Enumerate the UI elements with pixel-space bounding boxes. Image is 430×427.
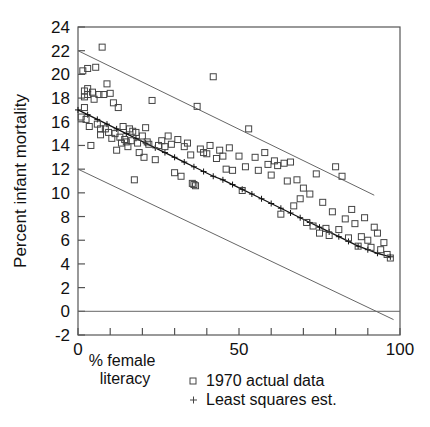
fit-plus-marker — [181, 159, 187, 165]
y-tick-label: 12 — [51, 160, 70, 179]
fit-plus-marker — [162, 150, 168, 156]
y-tick-label: 14 — [51, 136, 70, 155]
fit-plus-marker — [210, 173, 216, 179]
data-point — [313, 171, 319, 177]
x-tick-label: 50 — [230, 340, 249, 359]
data-point — [358, 234, 364, 240]
x-axis-title-line2: literacy — [100, 370, 151, 387]
fit-plus-marker — [288, 210, 294, 216]
fit-plus-marker — [220, 177, 226, 183]
data-point — [378, 247, 384, 253]
data-point — [93, 64, 99, 70]
data-point — [374, 230, 380, 236]
fit-plus-marker — [268, 201, 274, 207]
x-tick-label: 100 — [386, 340, 414, 359]
data-point — [307, 191, 313, 197]
fit-plus-marker — [172, 154, 178, 160]
data-point — [178, 173, 184, 179]
plot-frame — [78, 27, 400, 335]
data-point — [175, 137, 181, 143]
data-point — [265, 161, 271, 167]
legend-marker-plus — [190, 397, 197, 404]
data-point — [333, 164, 339, 170]
data-point — [143, 125, 149, 131]
x-tick-label: 0 — [73, 340, 82, 359]
lower-confidence-band — [78, 169, 394, 319]
data-point — [81, 105, 87, 111]
data-point — [381, 240, 387, 246]
legend-marker-open-square — [190, 378, 196, 384]
fit-plus-marker — [230, 182, 236, 188]
data-point — [278, 211, 284, 217]
data-point — [288, 159, 294, 165]
fit-plus-marker — [297, 215, 303, 221]
fit-plus-marker — [355, 243, 361, 249]
data-point — [342, 216, 348, 222]
fit-plus-marker — [201, 169, 207, 175]
y-tick-label: 20 — [51, 65, 70, 84]
fit-plus-marker — [317, 224, 323, 230]
fit-plus-marker — [75, 107, 81, 113]
data-point — [320, 199, 326, 205]
data-point — [352, 221, 358, 227]
data-point — [213, 155, 219, 161]
chart-figure: -2024681012141618202224 050100 Percent i… — [0, 0, 430, 427]
x-axis-title-line1: % female — [89, 352, 156, 369]
annotation-lines — [78, 51, 400, 320]
y-tick-label: 2 — [61, 279, 70, 298]
data-point — [230, 167, 236, 173]
data-point — [365, 237, 371, 243]
data-point — [172, 170, 178, 176]
data-point — [86, 124, 92, 130]
data-point — [152, 157, 158, 163]
data-point — [268, 172, 274, 178]
data-point — [88, 142, 94, 148]
scatter-plot-svg: -2024681012141618202224 050100 Percent i… — [0, 0, 430, 427]
data-point — [317, 230, 323, 236]
data-point — [162, 144, 168, 150]
fit-plus-marker — [259, 196, 265, 202]
data-point — [300, 185, 306, 191]
data-point — [291, 203, 297, 209]
y-tick-label: 6 — [61, 231, 70, 250]
legend: 1970 actual data Least squares est. — [190, 372, 337, 408]
y-tick-label: 16 — [51, 113, 70, 132]
data-point — [349, 206, 355, 212]
data-point — [297, 196, 303, 202]
data-point — [98, 132, 104, 138]
data-point — [236, 153, 242, 159]
legend-label-least-squares: Least squares est. — [206, 391, 337, 408]
data-point — [246, 126, 252, 132]
data-point — [294, 177, 300, 183]
y-axis-ticks: -2024681012141618202224 — [51, 18, 85, 345]
y-tick-label: 24 — [51, 18, 70, 37]
data-point — [362, 215, 368, 221]
data-point — [255, 167, 261, 173]
data-point — [262, 150, 268, 156]
data-point — [210, 74, 216, 80]
data-point — [336, 227, 342, 233]
fit-plus-marker — [249, 191, 255, 197]
data-point — [107, 90, 113, 96]
y-tick-label: 22 — [51, 42, 70, 61]
data-point — [114, 147, 120, 153]
y-axis-title: Percent infant mortality — [11, 94, 30, 268]
data-point — [99, 44, 105, 50]
fit-plus-marker — [191, 164, 197, 170]
y-tick-label: -2 — [55, 326, 70, 345]
y-tick-label: 10 — [51, 184, 70, 203]
data-point — [139, 133, 145, 139]
fit-plus-marker — [278, 205, 284, 211]
y-tick-label: 18 — [51, 89, 70, 108]
upper-confidence-band — [78, 51, 374, 196]
y-tick-label: 8 — [61, 208, 70, 227]
data-point — [188, 152, 194, 158]
data-point — [165, 133, 171, 139]
fit-polyline — [78, 110, 390, 257]
data-point — [217, 147, 223, 153]
data-point — [329, 209, 335, 215]
data-point — [371, 224, 377, 230]
legend-label-actual-data: 1970 actual data — [206, 372, 324, 389]
data-point — [120, 124, 126, 130]
data-point — [207, 142, 213, 148]
